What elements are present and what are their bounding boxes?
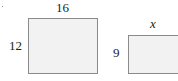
right-rectangle — [128, 35, 178, 74]
stray-mark — [2, 6, 3, 7]
right-rectangle-height-label: 9 — [113, 46, 120, 59]
left-rectangle — [28, 18, 98, 74]
left-rectangle-height-label: 12 — [9, 39, 22, 52]
left-rectangle-width-label: 16 — [56, 1, 69, 14]
right-rectangle-width-label: x — [150, 17, 156, 30]
